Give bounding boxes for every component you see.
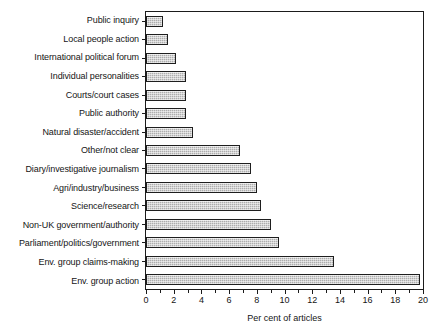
category-label-row: Agri/industry/business — [0, 178, 143, 197]
category-label: Science/research — [71, 201, 139, 211]
x-axis-title: Per cent of articles — [145, 313, 424, 323]
plot-area — [145, 11, 424, 290]
x-axis-tick-label: 6 — [227, 295, 232, 306]
category-label: Natural disaster/accident — [42, 127, 139, 137]
y-axis-tick — [142, 242, 146, 243]
bar-row — [146, 141, 423, 159]
y-axis-tick — [142, 279, 146, 280]
y-axis-tick — [142, 187, 146, 188]
bars-layer — [146, 12, 423, 289]
x-axis-tick-major — [423, 290, 424, 294]
bar-row — [146, 86, 423, 104]
y-axis-tick — [142, 39, 146, 40]
bar — [146, 145, 240, 156]
category-label-row: Parliament/politics/government — [0, 234, 143, 253]
category-label: Individual personalities — [50, 71, 139, 81]
bar — [146, 34, 168, 45]
x-axis-tick-minor — [354, 290, 355, 293]
x-axis-tick-label: 2 — [171, 295, 176, 306]
x-axis-tick-minor — [381, 290, 382, 293]
bar — [146, 256, 334, 267]
category-label: Diary/investigative journalism — [25, 164, 139, 174]
category-label-row: Diary/investigative journalism — [0, 160, 143, 179]
x-axis-tick-major — [201, 290, 202, 294]
x-axis-tick-label: 4 — [199, 295, 204, 306]
x-axis-tick-label: 8 — [254, 295, 259, 306]
y-axis-tick — [142, 95, 146, 96]
bar-row — [146, 252, 423, 270]
category-label: Agri/industry/business — [53, 183, 139, 193]
y-axis-tick — [142, 132, 146, 133]
category-label-row: Public inquiry — [0, 11, 143, 30]
x-axis-tick-major — [229, 290, 230, 294]
category-axis: Public inquiryLocal people actionInterna… — [0, 11, 143, 290]
x-axis-tick-major — [146, 290, 147, 294]
category-label-row: Public authority — [0, 104, 143, 123]
x-axis-tick-minor — [271, 290, 272, 293]
bar-row — [146, 271, 423, 289]
y-axis-tick — [142, 76, 146, 77]
y-axis-tick — [142, 150, 146, 151]
bar-row — [146, 178, 423, 196]
bar-row — [146, 12, 423, 30]
y-axis-tick — [142, 58, 146, 59]
y-axis-tick — [142, 261, 146, 262]
category-label: Non-UK government/authority — [23, 220, 139, 230]
x-axis-tick-major — [340, 290, 341, 294]
bar-row — [146, 197, 423, 215]
x-axis-tick-label: 12 — [307, 295, 317, 306]
bar — [146, 200, 261, 211]
bar-chart: Public inquiryLocal people actionInterna… — [0, 0, 434, 333]
category-label-row: Non-UK government/authority — [0, 216, 143, 235]
bar — [146, 182, 257, 193]
x-axis-tick-labels: 02468101214161820 — [145, 295, 424, 308]
category-label-row: Individual personalities — [0, 67, 143, 86]
x-axis-tick-minor — [243, 290, 244, 293]
x-axis-tick-minor — [326, 290, 327, 293]
category-label-row: Other/not clear — [0, 141, 143, 160]
bar — [146, 219, 271, 230]
bar — [146, 53, 176, 64]
x-axis-tick-label: 20 — [418, 295, 428, 306]
x-axis-tick-major — [312, 290, 313, 294]
y-axis-tick — [142, 224, 146, 225]
category-label: Parliament/politics/government — [19, 238, 139, 248]
category-label: Other/not clear — [81, 145, 139, 155]
bar — [146, 108, 186, 119]
bar — [146, 127, 193, 138]
bar-row — [146, 234, 423, 252]
category-label-row: Env. group claims-making — [0, 253, 143, 272]
category-label: Courts/court cases — [66, 90, 139, 100]
category-label: Public inquiry — [87, 15, 139, 25]
y-axis-tick — [142, 205, 146, 206]
bar — [146, 90, 186, 101]
y-axis-tick — [142, 113, 146, 114]
category-label: Env. group action — [71, 276, 139, 286]
category-label-row: Natural disaster/accident — [0, 123, 143, 142]
bar-row — [146, 123, 423, 141]
bar-row — [146, 67, 423, 85]
y-axis-tick — [142, 21, 146, 22]
category-label-row: Local people action — [0, 30, 143, 49]
bar-row — [146, 49, 423, 67]
x-axis-tick-minor — [298, 290, 299, 293]
bar — [146, 274, 420, 285]
x-axis-tick-major — [174, 290, 175, 294]
x-axis-tick-label: 0 — [143, 295, 148, 306]
bar — [146, 71, 186, 82]
x-axis-tick-label: 14 — [335, 295, 345, 306]
category-label: International political forum — [34, 52, 139, 62]
y-axis-tick — [142, 168, 146, 169]
x-axis-tick-label: 18 — [390, 295, 400, 306]
category-label-row: Env. group action — [0, 271, 143, 290]
x-axis-tick-label: 16 — [363, 295, 373, 306]
x-axis-tick-major — [368, 290, 369, 294]
category-label: Local people action — [63, 34, 139, 44]
category-label: Env. group claims-making — [39, 257, 139, 267]
bar — [146, 163, 251, 174]
x-axis-tick-minor — [160, 290, 161, 293]
category-label-row: Science/research — [0, 197, 143, 216]
x-axis-tick-minor — [409, 290, 410, 293]
x-axis-tick-minor — [188, 290, 189, 293]
x-axis-tick-major — [257, 290, 258, 294]
